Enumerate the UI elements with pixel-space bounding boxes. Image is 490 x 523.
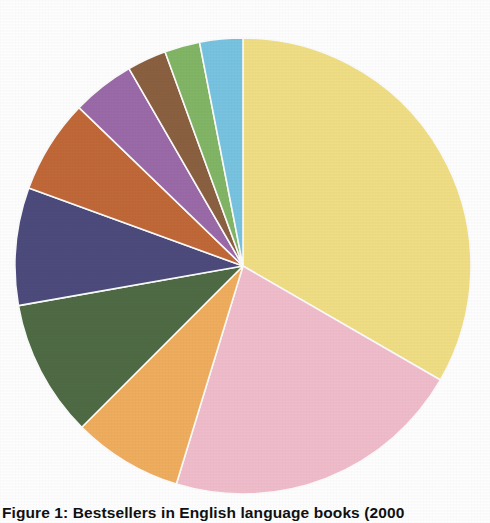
pie-chart-area (0, 0, 490, 500)
figure-caption: Figure 1: Bestsellers in English languag… (2, 503, 488, 522)
pie-chart-svg (0, 0, 490, 500)
pie-slice-group (15, 38, 471, 494)
figure-container: Figure 1: Bestsellers in English languag… (0, 0, 490, 523)
